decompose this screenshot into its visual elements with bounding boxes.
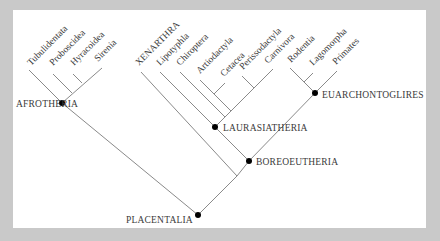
branch-perissodactyla xyxy=(242,76,254,88)
clade-label-boreoeutheria: BOREOEUTHERIA xyxy=(256,157,338,167)
branch-rodentia xyxy=(290,68,315,93)
branch-lagomorpha xyxy=(304,73,313,82)
node-laurasiatheria xyxy=(212,124,218,130)
clade-label-placentalia: PLACENTALIA xyxy=(126,215,193,225)
phylogenetic-tree: Tubulidentata Proboscidea Hyracoidea Sir… xyxy=(0,0,440,241)
leaf-labels: Tubulidentata Proboscidea Hyracoidea Sir… xyxy=(25,19,361,78)
node-boreoeutheria xyxy=(246,158,252,164)
branch-placentalia-right xyxy=(198,176,237,215)
clade-label-afrotheria: AFROTHERIA xyxy=(16,99,78,109)
branch-hyracoidea xyxy=(73,74,82,83)
branch-lipotyphla xyxy=(160,72,215,127)
node-euarchontoglires xyxy=(312,90,318,96)
branch-sirenia-stem xyxy=(62,68,102,103)
branches xyxy=(29,68,337,215)
branch-chiroptera xyxy=(180,72,225,117)
branch-afrotheria-root xyxy=(62,103,198,215)
node-placentalia xyxy=(195,212,201,218)
branch-artiodactyla xyxy=(200,80,231,111)
clade-label-euarchontoglires: EUARCHONTOGLIRES xyxy=(322,90,424,100)
clade-label-laurasiatheria: LAURASIATHERIA xyxy=(223,123,308,133)
nodes xyxy=(59,90,318,218)
branch-proboscidea xyxy=(53,74,72,93)
branch-art-cet-node xyxy=(214,83,225,94)
